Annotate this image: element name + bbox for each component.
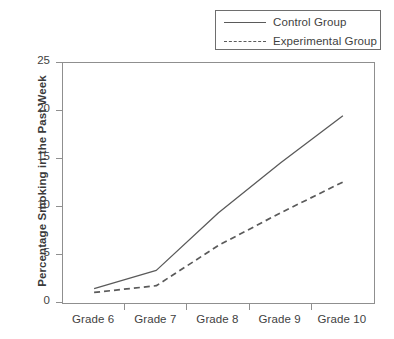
legend-label-experimental-group: Experimental Group — [273, 35, 377, 47]
y-axis-tick-label: 5 — [16, 246, 50, 258]
x-axis-tick-mark — [249, 303, 250, 310]
x-axis-tick-mark — [186, 303, 187, 310]
line-chart-figure: Control Group Experimental Group Percent… — [0, 0, 394, 339]
x-axis-tick-label: Grade 6 — [58, 313, 128, 325]
legend-entry-experimental-group: Experimental Group — [216, 31, 380, 50]
dashed-line-swatch — [224, 35, 266, 47]
x-axis-tick-label: Grade 9 — [245, 313, 315, 325]
y-axis-tick-label: 0 — [16, 294, 50, 306]
x-axis-tick-label: Grade 10 — [307, 313, 377, 325]
solid-line-swatch — [224, 16, 266, 28]
y-axis-tick-label: 10 — [16, 198, 50, 210]
x-axis-tick-mark — [311, 303, 312, 310]
chart-legend: Control Group Experimental Group — [215, 10, 381, 50]
series-lines — [63, 63, 374, 303]
legend-entry-control-group: Control Group — [216, 12, 380, 31]
legend-label-control-group: Control Group — [273, 16, 347, 28]
series-line-control-group — [94, 116, 343, 289]
x-axis-tick-mark — [124, 303, 125, 310]
y-axis-title: Percentage Smoking in the Past Week — [36, 56, 48, 306]
y-axis-tick-label: 15 — [16, 150, 50, 162]
x-axis-tick-label: Grade 8 — [183, 313, 253, 325]
series-line-experimental-group — [94, 182, 343, 292]
y-axis-tick-label: 25 — [16, 54, 50, 66]
y-axis-tick-label: 20 — [16, 102, 50, 114]
plot-area — [62, 62, 375, 304]
x-axis-tick-label: Grade 7 — [120, 313, 190, 325]
